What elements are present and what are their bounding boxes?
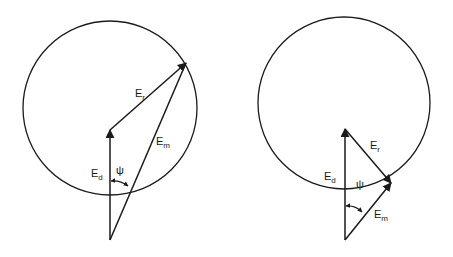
left-psi-arc [111,181,128,186]
right-er-label: Er [370,139,380,154]
right-em-vector [345,183,391,240]
left-em-label: Em [156,135,170,150]
right-circle [258,17,430,189]
right-er-vector [345,129,391,183]
left-em-vector [110,63,186,240]
right-em-label: Em [374,208,388,223]
left-ed-label: Ed [91,167,103,182]
left-psi-label: ψ [116,164,124,176]
phasor-diagrams: Er Em Ed ψ Er Em Ed ψ [0,0,453,257]
left-er-vector [110,63,186,130]
right-ed-label: Ed [324,170,336,185]
left-er-label: Er [135,87,145,102]
right-phasor-diagram: Er Em Ed ψ [258,17,430,240]
right-psi-arc [346,206,362,212]
left-phasor-diagram: Er Em Ed ψ [23,21,197,240]
right-psi-label: ψ [356,178,364,190]
